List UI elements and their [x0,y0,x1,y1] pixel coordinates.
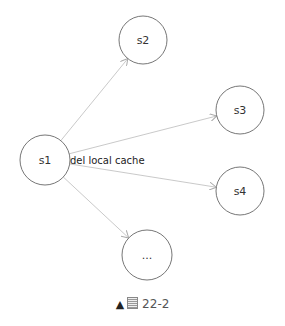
figure-glyph-icon [127,297,138,309]
triangle-marker-icon: ▲ [116,298,124,311]
edges [61,59,217,238]
node-label: s2 [137,34,150,47]
edge-s1-more [63,177,128,238]
nodes: s1s2s3s4... [20,16,264,280]
node-label: s4 [234,185,247,198]
node-label: ... [142,249,153,262]
edge-s1-s4 [70,164,217,187]
edge-s1-s3 [69,116,217,154]
node-s3: s3 [216,86,264,134]
node-s4: s4 [216,167,264,215]
node-label: s1 [39,154,52,167]
edge-label-del-local-cache: del local cache [70,155,145,166]
node-s1: s1 [20,135,70,185]
figure-number: 22-2 [142,297,169,311]
diagram-canvas: s1s2s3s4... del local cache [0,0,285,326]
node-label: s3 [234,104,247,117]
figure-caption: ▲22-2 [0,297,285,311]
node-more: ... [122,230,172,280]
edge-s1-s2 [61,59,128,141]
node-s2: s2 [119,16,167,64]
